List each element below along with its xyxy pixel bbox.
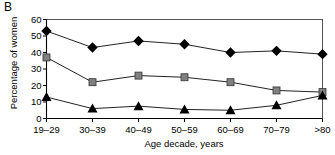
diamond-marker xyxy=(317,49,327,59)
diamond-marker xyxy=(41,26,51,36)
square-marker xyxy=(273,87,280,94)
series-square xyxy=(43,54,326,96)
diamond-marker xyxy=(87,42,97,52)
series-triangle xyxy=(42,90,328,114)
square-marker xyxy=(181,74,188,81)
axes-frame xyxy=(47,20,323,119)
diamond-marker xyxy=(225,47,235,57)
series-diamond xyxy=(41,26,327,60)
square-marker xyxy=(227,79,234,86)
square-marker xyxy=(89,79,96,86)
diamond-marker xyxy=(179,39,189,49)
data-series-layer xyxy=(41,26,327,114)
triangle-marker xyxy=(134,101,144,110)
diamond-marker xyxy=(133,36,143,46)
triangle-marker xyxy=(42,92,52,101)
square-marker xyxy=(43,54,50,61)
diamond-marker xyxy=(271,46,281,56)
plot-frame xyxy=(47,20,323,119)
square-marker xyxy=(135,72,142,79)
